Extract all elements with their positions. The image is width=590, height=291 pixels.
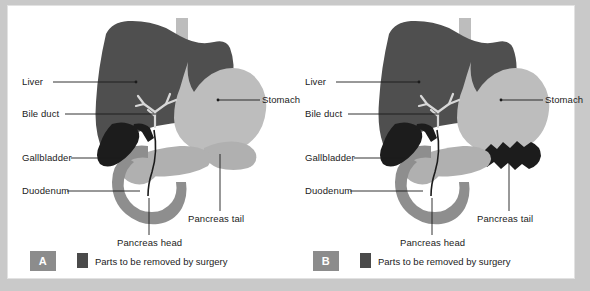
legend-swatch-b	[360, 253, 371, 268]
label-bile-duct-b: Bile duct	[305, 108, 342, 119]
liver-leader-dot-a	[135, 81, 138, 84]
panel-tag-a: A	[30, 251, 56, 271]
label-duodenum-b: Duodenum	[305, 185, 352, 196]
label-pancreas-head-a: Pancreas head	[117, 237, 182, 248]
label-gallbladder-a: Gallbladder	[22, 152, 72, 163]
label-bile-duct-a: Bile duct	[22, 108, 59, 119]
stomach-shape	[174, 62, 266, 154]
legend-text-b: Parts to be removed by surgery	[378, 256, 511, 267]
pancreas-tail-shape	[204, 142, 256, 170]
panel-a: Liver Bile duct Gallbladder Duodenum Sto…	[8, 6, 291, 278]
stomach-leader-dot-a	[217, 99, 220, 102]
label-liver-a: Liver	[22, 76, 43, 87]
label-duodenum-a: Duodenum	[22, 185, 69, 196]
legend-text-a: Parts to be removed by surgery	[95, 256, 228, 267]
stomach-leader-dot-b	[500, 99, 503, 102]
label-stomach-b: Stomach	[545, 94, 583, 105]
stomach-shape	[457, 62, 549, 154]
label-pancreas-tail-a: Pancreas tail	[188, 213, 244, 224]
legend-swatch-a	[77, 253, 88, 268]
label-pancreas-head-b: Pancreas head	[400, 237, 465, 248]
panel-tag-b: B	[313, 251, 339, 271]
label-liver-b: Liver	[305, 76, 326, 87]
figure-frame: Liver Bile duct Gallbladder Duodenum Sto…	[8, 6, 574, 278]
label-gallbladder-b: Gallbladder	[305, 152, 355, 163]
liver-leader-dot-b	[418, 81, 421, 84]
panel-b: Liver Bile duct Gallbladder Duodenum Sto…	[291, 6, 574, 278]
label-pancreas-tail-b: Pancreas tail	[477, 213, 533, 224]
